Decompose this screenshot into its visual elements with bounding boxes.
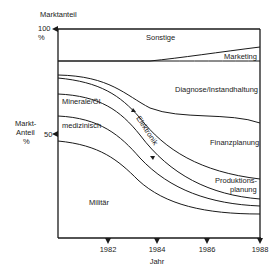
- elektronik-arrow-down: [150, 156, 155, 160]
- y-tick-100: 100: [38, 24, 51, 33]
- market-share-chart: Marktanteil 100 % 50 Markt- Anteil % Son…: [0, 0, 280, 274]
- region-finanzplanung: Finanzplanung: [210, 138, 259, 147]
- region-mineral: Minerale/Öl: [62, 97, 101, 106]
- x-axis-title: Jahr: [150, 257, 165, 266]
- y-arrow-50: [52, 131, 58, 137]
- y-arrow-100: [52, 26, 58, 32]
- region-sonstige: Sonstige: [146, 33, 175, 42]
- region-medizinisch: medizinisch: [62, 121, 101, 130]
- x-tick-label-1986: 1986: [199, 245, 216, 254]
- x-tick-label-1982: 1982: [100, 245, 117, 254]
- side-label-1: Markt-: [15, 119, 37, 128]
- x-tick-1982: [105, 238, 111, 244]
- y-tick-unit: %: [38, 33, 45, 42]
- y-axis-title: Marktanteil: [40, 10, 77, 19]
- side-label-2: Anteil: [16, 128, 35, 137]
- region-produktions-2: planung: [230, 185, 257, 194]
- x-tick-label-1984: 1984: [149, 245, 166, 254]
- x-tick-1988: [257, 238, 263, 244]
- y-tick-50: 50: [44, 130, 52, 139]
- region-produktions-1: Produktions-: [215, 176, 258, 185]
- region-elektronik: Elektronik: [134, 114, 160, 147]
- region-marketing: Marketing: [224, 52, 257, 61]
- side-label-3: %: [23, 137, 30, 146]
- region-diagnose: Diagnose/Instandhaltung: [175, 85, 258, 94]
- region-militaer: Militär: [89, 198, 110, 207]
- x-tick-1984: [154, 238, 160, 244]
- x-tick-1986: [204, 238, 210, 244]
- x-tick-label-1988: 1988: [252, 245, 269, 254]
